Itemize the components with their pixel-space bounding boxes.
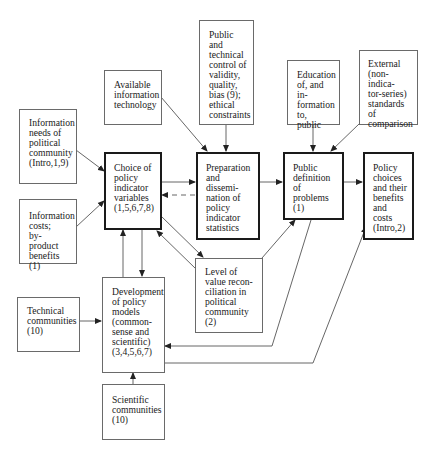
box-text: Information needs of political community… xyxy=(29,118,70,168)
box-text: Available information technology xyxy=(114,80,155,110)
box-text: Public and technical control of validity… xyxy=(209,30,247,120)
box-external-standards: External (non-indica- tor-series) standa… xyxy=(359,50,418,125)
box-text: Information costs; by-product benefits (… xyxy=(29,211,70,271)
box-text: Level of value recon- ciliation in polit… xyxy=(205,267,256,327)
box-choice-of-policy-indicator-variables: Choice of policy indicator variables (1,… xyxy=(104,152,162,230)
box-text: Technical communities (10) xyxy=(27,306,73,336)
box-text: Preparation and dissemi- nation of polic… xyxy=(206,163,253,233)
box-text: Choice of policy indicator variables (1,… xyxy=(114,163,155,213)
box-text: Development of policy models (common- se… xyxy=(112,287,158,357)
box-text: Scientific communities (10) xyxy=(112,395,158,425)
box-public-technical-control: Public and technical control of validity… xyxy=(199,20,254,125)
box-text: External (non-indica- tor-series) standa… xyxy=(368,59,411,129)
box-public-definition-of-problems: Public definition of problems (1) xyxy=(283,152,344,220)
box-information-costs: Information costs; by-product benefits (… xyxy=(19,199,77,264)
box-information-needs: Information needs of political community… xyxy=(19,109,77,184)
box-scientific-communities: Scientific communities (10) xyxy=(102,384,165,440)
box-level-of-value-reconciliation: Level of value recon- ciliation in polit… xyxy=(195,258,263,333)
box-available-information-technology: Available information technology xyxy=(104,70,162,125)
box-development-of-policy-models: Development of policy models (common- se… xyxy=(102,277,165,373)
box-technical-communities: Technical communities (10) xyxy=(17,297,80,352)
box-education-public: Education of, and in- formation to, publ… xyxy=(287,60,340,125)
box-policy-choices: Policy choices and their benefits and co… xyxy=(363,152,414,240)
box-text: Education of, and in- formation to, publ… xyxy=(297,70,333,130)
box-preparation-dissemination: Preparation and dissemi- nation of polic… xyxy=(196,152,260,240)
box-text: Public definition of problems (1) xyxy=(293,163,337,213)
box-text: Policy choices and their benefits and co… xyxy=(373,163,407,233)
